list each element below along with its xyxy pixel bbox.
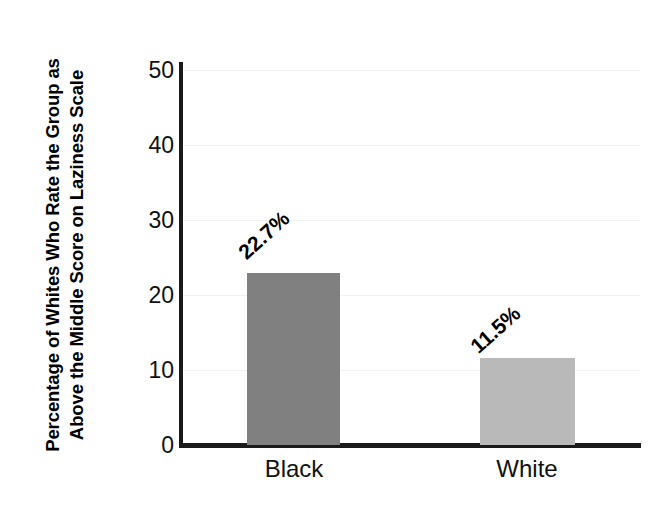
category-label-black: Black — [233, 455, 355, 483]
y-tick-30: 30 — [114, 209, 174, 232]
category-label-white: White — [466, 455, 588, 483]
bar-chart: Percentage of Whites Who Rate the Group … — [0, 0, 670, 509]
bar-white[interactable] — [480, 358, 575, 445]
y-axis-title: Percentage of Whites Who Rate the Group … — [41, 40, 89, 470]
y-tick-10: 10 — [114, 359, 174, 382]
bar-black[interactable] — [247, 273, 340, 445]
y-tick-20: 20 — [114, 284, 174, 307]
y-tick-50: 50 — [114, 59, 174, 82]
y-tick-40: 40 — [114, 134, 174, 157]
y-tick-labels: 50 40 30 20 10 0 — [110, 0, 174, 509]
y-tick-0: 0 — [114, 434, 174, 457]
